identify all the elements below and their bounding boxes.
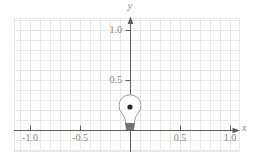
light-bulb-icon <box>119 95 141 130</box>
y-axis-arrowhead <box>128 17 134 25</box>
x-tick-label-1.0: 1.0 <box>214 132 246 144</box>
y-tick-label-0.5: 0.5 <box>94 74 122 86</box>
x-tick-label-neg0.5: -0.5 <box>64 132 96 144</box>
bulb-filament-dot <box>127 104 132 109</box>
x-tick-label-0.5: 0.5 <box>164 132 196 144</box>
y-axis-label: y <box>122 0 138 12</box>
coordinate-plane-figure: y x 1.0 0.5 -1.0 -0.5 0.5 1.0 <box>0 0 253 166</box>
x-axis <box>14 126 234 131</box>
x-tick-label-neg1.0: -1.0 <box>14 132 46 144</box>
y-axis <box>126 23 131 152</box>
bulb-base <box>126 124 135 131</box>
y-tick-label-1.0: 1.0 <box>94 24 122 36</box>
